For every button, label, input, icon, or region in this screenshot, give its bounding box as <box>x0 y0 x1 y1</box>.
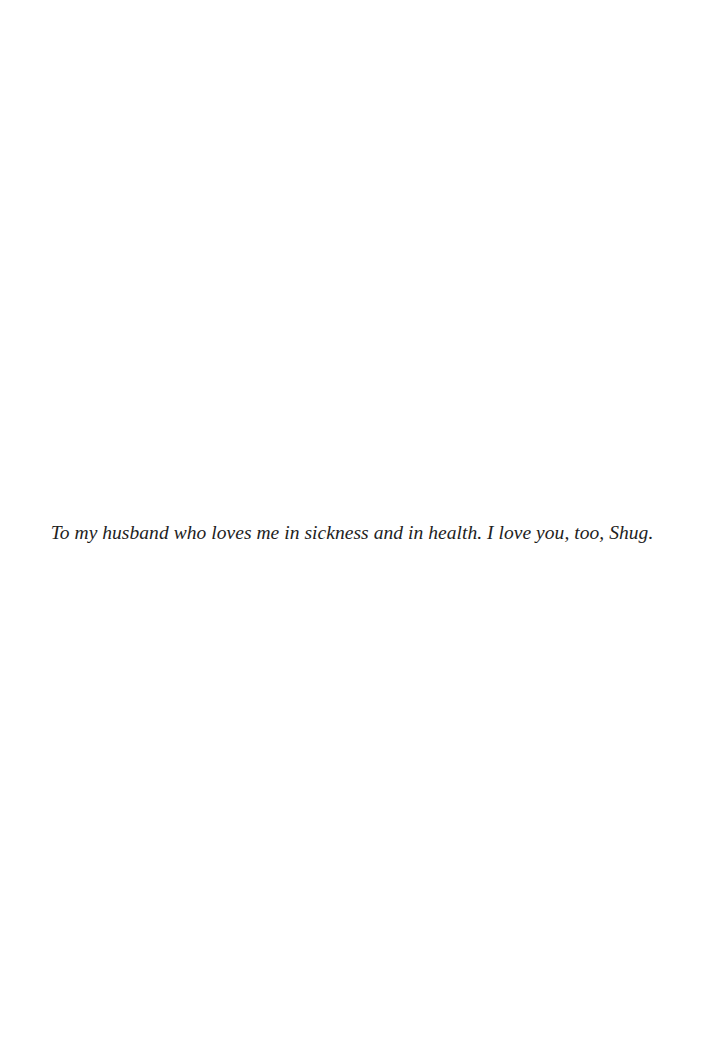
book-page: To my husband who loves me in sickness a… <box>0 0 704 1053</box>
dedication-text: To my husband who loves me in sickness a… <box>0 519 704 547</box>
